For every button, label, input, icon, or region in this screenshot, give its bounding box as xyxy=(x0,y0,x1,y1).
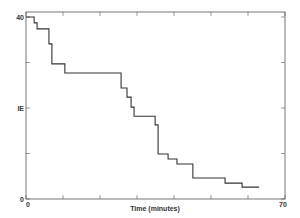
step-chart: 0IE40070 Time (minutes) xyxy=(0,0,300,218)
y-tick-label: 40 xyxy=(16,14,24,21)
step-line xyxy=(26,17,259,187)
x-axis-title: Time (minutes) xyxy=(130,205,180,213)
plot-frame xyxy=(26,12,285,199)
axis-ticks xyxy=(26,12,285,199)
x-tick-label: 0 xyxy=(26,201,30,208)
y-tick-label: 0 xyxy=(20,196,24,203)
tick-labels: 0IE40070 xyxy=(16,14,287,209)
y-tick-label: IE xyxy=(17,105,24,112)
x-tick-label: 70 xyxy=(279,201,287,208)
plot-border xyxy=(26,12,285,199)
